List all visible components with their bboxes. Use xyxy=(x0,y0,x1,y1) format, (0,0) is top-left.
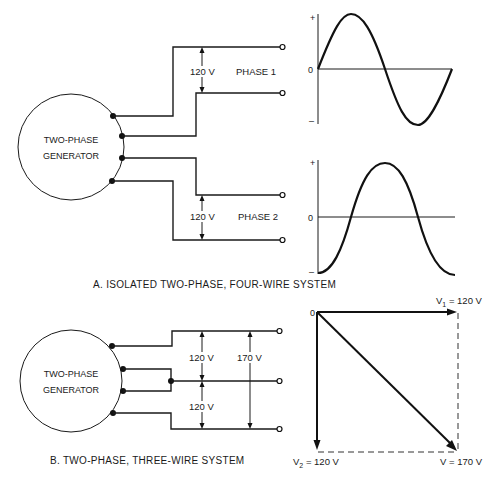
generator-a-label-1: TWO-PHASE xyxy=(44,135,99,145)
b-wire-bottom xyxy=(113,413,277,429)
arrow-head-down-icon xyxy=(200,234,205,240)
phase1-waveform: + 0 – xyxy=(308,13,452,126)
phasor-v1-label: V1 = 120 V xyxy=(436,295,483,308)
arrow-head-up-icon xyxy=(200,47,205,53)
caption-b: B. TWO-PHASE, THREE-WIRE SYSTEM xyxy=(50,455,245,466)
arrow-head-down-icon xyxy=(200,423,205,429)
phasor-diagram: 0 V1 = 120 V V2 = 120 V V = 170 V xyxy=(293,295,483,469)
phase1-output-terminal-2 xyxy=(280,91,285,96)
section-b-three-wire: TWO-PHASE GENERATOR 120 V 120 V 170 V xyxy=(20,295,483,469)
arrow-head-down-icon xyxy=(314,440,321,450)
b-wire-top xyxy=(112,331,277,346)
phasor-v-resultant xyxy=(317,312,451,444)
phase2-output-terminal-2 xyxy=(280,238,285,243)
phasor-origin-label: 0 xyxy=(310,308,315,318)
phase1-wire-b xyxy=(122,93,280,136)
b-wire-common-loop xyxy=(123,369,171,391)
phase2-wire-a xyxy=(122,158,280,195)
two-phase-diagram: TWO-PHASE GENERATOR 120 V PHASE 1 120 V … xyxy=(0,0,503,482)
generator-b-label-2: GENERATOR xyxy=(43,385,100,395)
generator-b-label-1: TWO-PHASE xyxy=(44,369,99,379)
phase1-output-terminal-1 xyxy=(280,45,285,50)
b-output-terminal-1 xyxy=(277,329,282,334)
b-total-voltage-label: 170 V xyxy=(237,352,262,363)
waveform1-zero: 0 xyxy=(308,65,313,75)
arrow-head-down-icon xyxy=(248,423,253,429)
arrow-head-down-icon xyxy=(200,375,205,381)
phase1-voltage-label: 120 V xyxy=(190,66,215,77)
b-lower-voltage-label: 120 V xyxy=(189,401,214,412)
arrow-head-up-icon xyxy=(200,331,205,337)
phase2-label: PHASE 2 xyxy=(238,211,278,222)
phasor-v-result-label: V = 170 V xyxy=(440,456,483,467)
section-a-four-wire: TWO-PHASE GENERATOR 120 V PHASE 1 120 V … xyxy=(18,13,455,290)
phase2-voltage-label: 120 V xyxy=(190,211,215,222)
b-upper-voltage-label: 120 V xyxy=(189,352,214,363)
waveform2-zero: 0 xyxy=(308,213,313,223)
b-output-terminal-2 xyxy=(277,379,282,384)
waveform1-minus: – xyxy=(309,116,314,126)
phase1-label: PHASE 1 xyxy=(236,66,276,77)
phasor-v2-label: V2 = 120 V xyxy=(293,456,340,469)
generator-a-circle xyxy=(18,94,124,200)
arrow-head-down-icon xyxy=(200,87,205,93)
waveform2-curve xyxy=(318,163,455,275)
generator-a-label-2: GENERATOR xyxy=(43,151,100,161)
arrow-head-up-icon xyxy=(200,381,205,387)
arrow-head-up-icon xyxy=(200,195,205,201)
b-output-terminal-3 xyxy=(277,427,282,432)
phase2-output-terminal-1 xyxy=(280,193,285,198)
waveform1-plus: + xyxy=(310,13,315,23)
arrow-head-right-icon xyxy=(447,309,457,316)
waveform2-plus: + xyxy=(310,158,315,168)
caption-a: A. ISOLATED TWO-PHASE, FOUR-WIRE SYSTEM xyxy=(93,279,336,290)
waveform2-minus: – xyxy=(309,267,314,277)
phase2-waveform: + 0 – xyxy=(308,158,455,277)
arrow-head-up-icon xyxy=(248,331,253,337)
generator-b-circle xyxy=(20,330,122,432)
